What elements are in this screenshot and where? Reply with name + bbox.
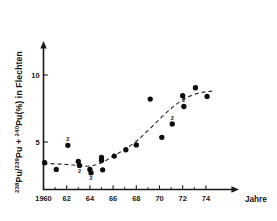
data-point	[204, 94, 209, 99]
data-point	[134, 142, 139, 147]
chart-figure: 238Pu/239Pu + 240Pu(%) in Flechten 19606…	[0, 0, 277, 221]
data-point	[123, 147, 128, 152]
x-tick-label: 68	[132, 194, 140, 203]
trend-curve	[44, 91, 216, 166]
y-axis-arrow-icon	[40, 41, 46, 49]
data-point	[112, 153, 117, 158]
data-point	[54, 167, 59, 172]
chart-canvas: 238Pu/239Pu + 240Pu(%) in Flechten 19606…	[0, 0, 277, 221]
data-point	[148, 96, 153, 101]
y-tick-label: 5	[35, 138, 39, 147]
data-point	[170, 121, 175, 126]
data-point	[99, 158, 104, 163]
x-tick-label: 74	[202, 194, 211, 203]
chart-axes	[40, 41, 239, 193]
data-point	[42, 160, 47, 165]
point-count-annotation: 2	[78, 168, 81, 174]
x-tick-label: 72	[179, 194, 187, 203]
data-point	[181, 104, 186, 109]
x-tick-label: 64	[86, 194, 95, 203]
data-point	[193, 85, 198, 90]
y-tick-label: 10	[31, 71, 39, 80]
point-count-annotation: 2	[89, 175, 92, 181]
x-axis-arrow-icon	[231, 186, 239, 193]
y-axis-title: 238Pu/239Pu + 240Pu(%) in Flechten	[13, 51, 24, 193]
data-point	[159, 135, 164, 140]
point-count-annotation: 2	[182, 97, 185, 103]
x-tick-label: 1960	[35, 194, 51, 203]
x-tick-label: 62	[63, 194, 71, 203]
point-annotations: 22222	[66, 97, 185, 181]
y-axis-ticks: 510	[31, 71, 48, 147]
x-tick-label: 70	[155, 194, 163, 203]
point-count-annotation: 2	[171, 115, 174, 121]
axis-lines	[44, 46, 234, 190]
data-point	[100, 167, 105, 172]
x-tick-label: 66	[109, 194, 117, 203]
data-point	[65, 143, 70, 148]
x-axis-label: Jahre	[245, 195, 267, 204]
x-axis-ticks: 196062646668707274	[35, 185, 211, 203]
trend-curve-path	[44, 91, 216, 166]
x-axis-title: Jahre	[245, 195, 267, 204]
y-axis-label: 238Pu/239Pu + 240Pu(%) in Flechten	[13, 51, 24, 193]
point-count-annotation: 2	[66, 136, 69, 142]
